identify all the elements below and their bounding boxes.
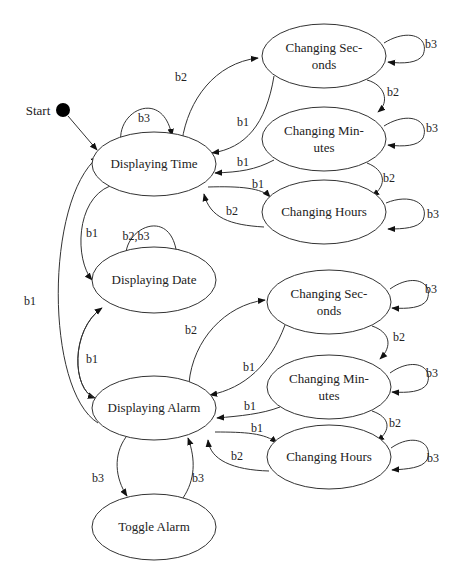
state-toggle-alarm: Toggle Alarm	[92, 494, 216, 560]
state-label: onds	[312, 57, 337, 72]
edge-label: b2	[175, 70, 187, 84]
state-label: Displaying Alarm	[108, 400, 201, 415]
state-label: onds	[317, 303, 342, 318]
edge-label: b3	[426, 121, 438, 135]
state-label: Displaying Date	[112, 272, 197, 287]
edge-label: b1	[252, 177, 264, 191]
edge-start-to-displaying-time	[68, 116, 97, 150]
edge-label: b1	[237, 155, 249, 169]
edge-time-changing-minutes-to-time-changing-minutes: b3	[384, 118, 438, 146]
edge-label: b1	[86, 226, 98, 240]
state-time-changing-seconds: Changing Sec-onds	[262, 24, 386, 88]
state-diagram: b3b2b1b1b1b2b3b2b3b2b3b1b2,b3b1b1b2b1b1b…	[0, 0, 468, 581]
edge-label: b2	[393, 330, 405, 344]
edge-alarm-changing-hours-to-alarm-changing-hours: b3	[391, 440, 439, 470]
edge-toggle-alarm-to-displaying-alarm: b3	[183, 438, 204, 498]
state-displaying-date: Displaying Date	[92, 247, 216, 313]
state-label: utes	[314, 140, 335, 155]
arrow-icon	[386, 199, 424, 229]
start-label: Start	[26, 103, 51, 118]
edge-displaying-alarm-to-toggle-alarm: b3	[92, 437, 127, 496]
arrow-icon	[384, 35, 424, 63]
edge-displaying-time-to-time-changing-hours: b1	[208, 177, 270, 197]
edge-alarm-changing-minutes-to-alarm-changing-minutes: b3	[390, 364, 438, 392]
arrow-icon	[367, 80, 385, 112]
arrow-icon	[68, 116, 97, 150]
start-dot-icon	[56, 103, 70, 117]
state-label: Displaying Time	[110, 156, 197, 171]
edge-label: b3	[427, 207, 439, 221]
arrow-icon	[372, 326, 388, 359]
edge-alarm-changing-seconds-to-alarm-changing-minutes: b2	[372, 326, 405, 359]
start-marker: Start	[26, 103, 70, 118]
edge-label: b3	[138, 111, 150, 125]
state-label: Changing Min-	[289, 371, 369, 386]
edge-time-changing-seconds-to-time-changing-seconds: b3	[384, 35, 437, 63]
edge-alarm-changing-minutes-to-displaying-alarm: b1	[217, 399, 280, 418]
edge-label: b2	[185, 323, 197, 337]
state-label: Changing Min-	[284, 123, 364, 138]
edge-alarm-changing-seconds-to-alarm-changing-seconds: b3	[390, 280, 437, 308]
state-alarm-changing-hours: Changing Hours	[267, 425, 391, 489]
edge-label: b3	[425, 37, 437, 51]
edge-label: b3	[192, 471, 204, 485]
edge-label: b1	[24, 294, 36, 308]
edge-displaying-alarm-to-displaying-time: b1	[24, 157, 98, 423]
edge-time-changing-hours-to-displaying-time: b2	[204, 194, 264, 227]
state-label: utes	[319, 388, 340, 403]
edge-time-changing-minutes-to-displaying-time: b1	[215, 155, 274, 173]
edge-label: b1	[243, 360, 255, 374]
edge-label: b3	[425, 282, 437, 296]
edge-label: b3	[426, 366, 438, 380]
edge-label: b1	[244, 399, 256, 413]
state-alarm-changing-minutes: Changing Min-utes	[267, 355, 391, 419]
arrow-icon	[215, 432, 277, 443]
edge-label: b2	[387, 85, 399, 99]
edge-time-changing-seconds-to-time-changing-minutes: b2	[367, 80, 399, 112]
state-label: Changing Sec-	[291, 286, 368, 301]
edge-label: b1	[86, 352, 98, 366]
arrow-icon	[384, 118, 424, 146]
edge-displaying-alarm-to-alarm-changing-hours: b1	[215, 421, 277, 443]
arrow-icon	[58, 157, 98, 423]
edge-label: b2	[383, 171, 395, 185]
state-time-changing-minutes: Changing Min-utes	[262, 107, 386, 171]
nodes-layer: Displaying TimeDisplaying DateDisplaying…	[92, 24, 391, 560]
edge-label: b2,b3	[123, 229, 150, 243]
state-alarm-changing-seconds: Changing Sec-onds	[267, 270, 391, 334]
arrow-icon	[391, 440, 428, 470]
edge-label: b1	[251, 421, 263, 435]
arrow-icon	[390, 280, 428, 308]
edges-layer: b3b2b1b1b1b2b3b2b3b2b3b1b2,b3b1b1b2b1b1b…	[24, 35, 439, 498]
edge-label: b3	[92, 471, 104, 485]
edge-label: b3	[427, 451, 439, 465]
edge-label: b1	[237, 115, 249, 129]
edge-label: b2	[389, 416, 401, 430]
edge-time-changing-hours-to-time-changing-hours: b3	[386, 199, 439, 229]
state-label: Toggle Alarm	[118, 519, 190, 534]
edge-displaying-date-to-displaying-alarm: b1	[78, 308, 102, 398]
edge-label: b2	[231, 449, 243, 463]
state-label: Changing Hours	[281, 204, 367, 219]
state-time-changing-hours: Changing Hours	[262, 180, 386, 244]
state-label: Changing Hours	[286, 449, 372, 464]
state-displaying-time: Displaying Time	[92, 132, 216, 196]
arrow-icon	[183, 438, 193, 498]
state-displaying-alarm: Displaying Alarm	[92, 376, 216, 440]
arrow-icon	[390, 364, 428, 392]
arrow-icon	[117, 437, 127, 496]
edge-label: b2	[226, 204, 238, 218]
state-label: Changing Sec-	[286, 40, 363, 55]
edge-alarm-changing-hours-to-displaying-alarm: b2	[208, 440, 269, 471]
